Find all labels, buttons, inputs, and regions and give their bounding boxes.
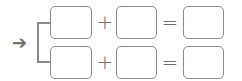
equals-sign: = bbox=[160, 12, 180, 32]
bracket-bottom bbox=[37, 61, 50, 63]
plus-sign: + bbox=[95, 12, 115, 32]
sum-box-row-1[interactable] bbox=[183, 6, 224, 39]
addend-box-1-row-2[interactable] bbox=[50, 46, 92, 79]
plus-sign: + bbox=[95, 52, 115, 72]
equals-sign: = bbox=[160, 52, 180, 72]
addend-box-1-row-1[interactable] bbox=[50, 6, 92, 39]
addend-box-2-row-2[interactable] bbox=[116, 46, 157, 79]
bracket-top bbox=[37, 22, 50, 24]
sum-box-row-2[interactable] bbox=[183, 46, 224, 79]
arrow-icon: ➔ bbox=[12, 34, 27, 52]
bracket-vertical bbox=[37, 22, 39, 62]
addend-box-2-row-1[interactable] bbox=[116, 6, 157, 39]
